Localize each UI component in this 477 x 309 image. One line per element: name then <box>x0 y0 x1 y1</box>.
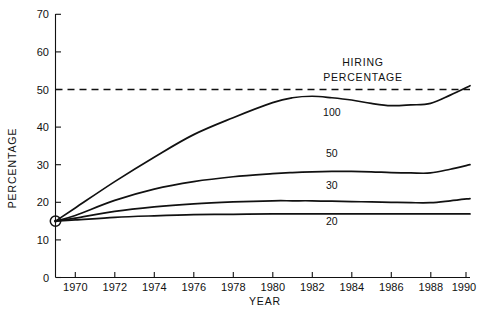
hiring-percentage-legend: HIRING PERCENTAGE <box>323 56 403 83</box>
y-tick-label-70: 70 <box>37 8 49 20</box>
data-curve-20 <box>56 214 471 221</box>
x-tick-label-1986: 1986 <box>379 281 403 293</box>
y-tick-label-10: 10 <box>37 234 49 246</box>
y-tick-label-20: 20 <box>37 196 49 208</box>
x-axis-ticks <box>75 272 466 278</box>
x-tick-label-1976: 1976 <box>182 281 206 293</box>
curve-label-100: 100 <box>323 106 341 118</box>
y-axis-tick-labels: 0 10 20 30 40 50 60 70 <box>37 8 49 283</box>
data-curve-50 <box>56 165 471 221</box>
legend-line-1: HIRING <box>342 56 384 68</box>
x-tick-label-1980: 1980 <box>261 281 285 293</box>
x-tick-label-1978: 1978 <box>221 281 245 293</box>
y-tick-label-0: 0 <box>43 272 49 284</box>
x-axis-tick-labels: 1970 1972 1974 1976 1978 1980 1982 1984 … <box>63 281 476 293</box>
line-chart-svg: 0 10 20 30 40 50 60 70 1970 1972 <box>0 0 477 309</box>
y-tick-label-60: 60 <box>37 46 49 58</box>
x-tick-label-1990: 1990 <box>452 281 476 293</box>
origin-dot-icon <box>54 220 57 223</box>
curve-label-50: 50 <box>326 147 338 159</box>
x-tick-label-1970: 1970 <box>63 281 87 293</box>
x-tick-label-1974: 1974 <box>142 281 166 293</box>
y-axis-title: PERCENTAGE <box>6 128 18 209</box>
y-tick-label-40: 40 <box>37 121 49 133</box>
x-axis-title: YEAR <box>249 295 281 307</box>
y-axis-ticks <box>56 14 62 277</box>
chart-container: 0 10 20 30 40 50 60 70 1970 1972 <box>0 0 477 309</box>
x-tick-label-1972: 1972 <box>103 281 127 293</box>
x-tick-label-1982: 1982 <box>300 281 324 293</box>
y-tick-label-30: 30 <box>37 159 49 171</box>
x-tick-label-1988: 1988 <box>419 281 443 293</box>
curve-label-30: 30 <box>326 179 338 191</box>
curve-label-20: 20 <box>326 215 338 227</box>
y-tick-label-50: 50 <box>37 84 49 96</box>
legend-line-2: PERCENTAGE <box>323 71 403 83</box>
x-tick-label-1984: 1984 <box>340 281 364 293</box>
